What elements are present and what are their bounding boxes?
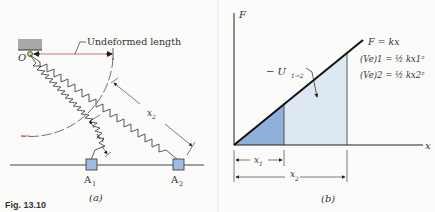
figure-caption: Fig. 13.10 — [5, 200, 46, 210]
svg-text:2: 2 — [151, 113, 156, 120]
panel-b: F x F = kx (Ve)1 = ½ kx1² (Ve)2 = ½ kx2²… — [234, 9, 431, 204]
undeformed-arc — [21, 58, 113, 137]
energy-2-label: (Ve)2 = ½ kx2² — [360, 70, 425, 80]
svg-text:1: 1 — [92, 180, 96, 188]
panel-a-label: (a) — [89, 192, 103, 203]
spring-1 — [30, 55, 105, 160]
wall-support — [18, 39, 42, 50]
spring-2 — [30, 55, 178, 160]
y-axis-label: F — [238, 9, 247, 20]
svg-text:2: 2 — [179, 180, 183, 188]
svg-text:2: 2 — [294, 175, 299, 182]
energy-1-label: (Ve)1 = ½ kx1² — [360, 54, 425, 64]
x-axis-label: x — [425, 140, 431, 151]
panel-a: O Undeformed length A 1 A 2 x 1 — [10, 36, 204, 203]
force-line-label: F = kx — [367, 36, 400, 47]
pivot-label: O — [18, 52, 26, 63]
panel-b-label: (b) — [321, 193, 335, 204]
undeformed-length-label: Undeformed length — [87, 36, 181, 47]
block-a1-label: A — [83, 174, 92, 185]
figure-svg: O Undeformed length A 1 A 2 x 1 — [0, 0, 435, 212]
block-a1 — [86, 159, 97, 170]
block-a2 — [173, 159, 184, 170]
svg-text:1: 1 — [101, 136, 105, 143]
svg-text:1→2: 1→2 — [291, 72, 304, 79]
figure-13-10: O Undeformed length A 1 A 2 x 1 — [0, 0, 435, 212]
block-a2-label: A — [170, 174, 179, 185]
svg-text:1: 1 — [259, 160, 263, 167]
work-label: − U — [266, 66, 287, 77]
